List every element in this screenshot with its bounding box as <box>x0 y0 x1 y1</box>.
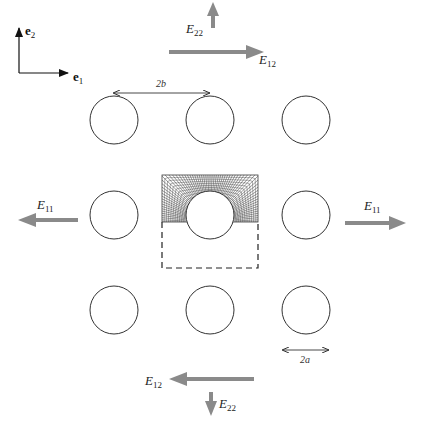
e2-label: e2 <box>25 24 35 40</box>
hole-circle <box>90 96 138 144</box>
e11-left-arrow-shaft <box>34 218 78 222</box>
hole-circle <box>186 96 234 144</box>
hole-circle <box>90 286 138 334</box>
hole-circle <box>90 191 138 239</box>
e22-top-label: E22 <box>186 22 203 38</box>
e22-top-arrow-head <box>207 2 219 16</box>
e1-label: e1 <box>73 70 83 86</box>
e11-right-label: E11 <box>364 199 381 215</box>
e12-bottom-arrow-head <box>169 372 187 386</box>
e22-top-arrow-shaft <box>211 14 215 28</box>
e12-top-arrow-shaft <box>169 50 248 54</box>
hole-circle <box>282 96 330 144</box>
hole-circle <box>186 286 234 334</box>
e12-bottom-arrow-shaft <box>185 377 254 381</box>
e12-bottom-label: E12 <box>145 374 162 390</box>
e11-right-arrow-head <box>389 216 406 230</box>
hole-lattice <box>90 96 330 334</box>
e11-right-arrow-shaft <box>345 221 391 225</box>
e11-left-label: E11 <box>37 198 54 214</box>
e22-bottom-label: E22 <box>219 397 236 413</box>
diameter-label: 2a <box>300 355 310 365</box>
hole-circle <box>282 286 330 334</box>
periodic-hole-lattice-diagram <box>0 0 422 432</box>
spacing-label: 2b <box>156 79 166 89</box>
e11-left-arrow-head <box>18 213 36 227</box>
hole-circle <box>282 191 330 239</box>
e12-top-label: E12 <box>259 53 276 69</box>
hole-circle <box>186 191 234 239</box>
e22-bottom-arrow-head <box>205 401 217 416</box>
